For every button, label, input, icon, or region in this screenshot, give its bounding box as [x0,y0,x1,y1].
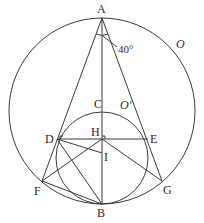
label-g: G [163,183,172,197]
geometry-diagram: A 40° O C O′ D H E I F G B [0,0,204,223]
label-f: F [34,184,41,198]
segment-di [57,139,102,153]
label-b: B [97,206,105,220]
label-o-prime: O′ [120,98,132,112]
label-h: H [91,125,100,139]
segment-fb [42,181,102,204]
label-a: A [97,2,106,16]
label-e: E [150,132,157,146]
angle-pointer [103,36,117,47]
segment-db [57,139,102,204]
label-d: D [45,132,54,146]
label-angle: 40° [118,43,133,55]
label-c: C [94,97,102,111]
segment-af [42,18,102,181]
label-i: I [104,150,108,164]
label-o: O [176,37,185,51]
